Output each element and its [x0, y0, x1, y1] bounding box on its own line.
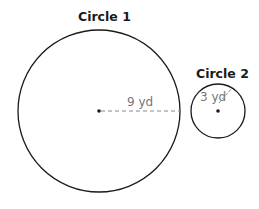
circle2-title: Circle 2 [196, 66, 249, 81]
circle1-center-dot [97, 109, 101, 113]
circle1-radius-label: 9 yd [127, 95, 153, 109]
circle2-center-dot [216, 109, 220, 113]
circles-diagram: Circle 1 9 yd Circle 2 3 yd [0, 0, 259, 209]
circle1-title: Circle 1 [78, 9, 131, 24]
circle2-radius-label: 3 yd [200, 90, 226, 104]
